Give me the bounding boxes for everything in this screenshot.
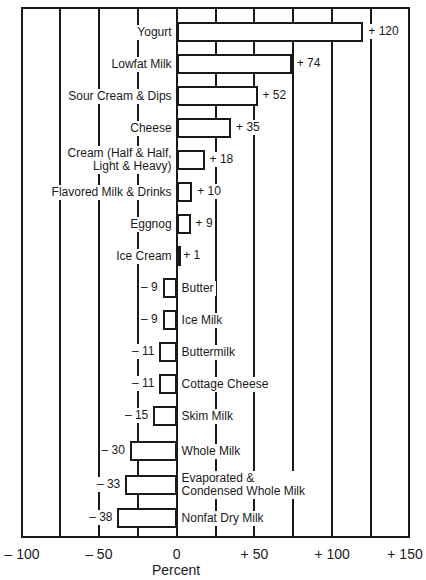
value-label: – 9 <box>139 280 160 295</box>
bar <box>177 22 364 42</box>
value-label: + 120 <box>366 24 400 39</box>
value-label: – 15 <box>123 408 150 423</box>
gridline <box>370 7 372 538</box>
category-label: Yogurt <box>135 25 173 40</box>
bar <box>159 342 176 362</box>
value-label: + 74 <box>295 56 323 71</box>
bar <box>163 278 177 298</box>
category-label: Ice Milk <box>180 313 225 328</box>
bar <box>163 310 177 330</box>
value-label: – 30 <box>100 443 127 458</box>
bar <box>153 406 176 426</box>
bar <box>130 441 177 461</box>
category-label: Buttermilk <box>180 345 237 360</box>
value-label: + 52 <box>261 88 289 103</box>
category-label: Flavored Milk & Drinks <box>50 185 174 200</box>
bar <box>177 54 292 74</box>
value-label: – 11 <box>130 376 156 391</box>
category-label: Eggnog <box>128 217 173 232</box>
category-label: Butter <box>180 281 216 296</box>
category-label: Lowfat Milk <box>110 57 174 72</box>
x-tick-label: + 50 <box>241 546 269 562</box>
x-tick-label: – 50 <box>85 546 112 562</box>
category-label: Whole Milk <box>180 444 243 459</box>
x-tick-label: + 150 <box>387 546 422 562</box>
value-label: – 11 <box>130 344 156 359</box>
gridline <box>98 7 100 538</box>
gridline <box>292 7 294 538</box>
bar <box>177 118 231 138</box>
category-label: Nonfat Dry Milk <box>180 511 266 526</box>
value-label: – 9 <box>139 312 160 327</box>
category-label: Skim Milk <box>180 409 235 424</box>
gridline <box>59 7 61 538</box>
bar <box>125 475 176 495</box>
bar <box>177 214 191 234</box>
value-label: + 35 <box>234 120 262 135</box>
value-label: + 1 <box>181 248 202 263</box>
x-tick-label: 0 <box>173 546 181 562</box>
value-label: + 10 <box>195 184 223 199</box>
x-tick-label: + 100 <box>314 546 349 562</box>
bar <box>177 246 181 266</box>
value-label: – 33 <box>95 477 122 492</box>
value-label: – 38 <box>87 510 114 525</box>
bar <box>117 508 176 528</box>
category-label: Ice Cream <box>114 249 173 264</box>
category-label: Cheese <box>128 121 173 136</box>
value-label: + 9 <box>194 216 215 231</box>
bar <box>177 86 258 106</box>
category-label: Cream (Half & Half,Light & Heavy) <box>66 146 174 174</box>
bar <box>159 374 176 394</box>
category-label: Sour Cream & Dips <box>66 89 173 104</box>
category-label: Evaporated &Condensed Whole Milk <box>180 471 307 499</box>
bar <box>177 182 193 202</box>
bar-chart: Yogurt+ 120Lowfat Milk+ 74Sour Cream & D… <box>0 0 426 580</box>
category-label: Cottage Cheese <box>180 377 271 392</box>
gridline <box>331 7 333 538</box>
x-tick-label: – 100 <box>4 546 39 562</box>
value-label: + 18 <box>208 152 236 167</box>
x-axis-label: Percent <box>152 562 200 578</box>
bar <box>177 150 205 170</box>
